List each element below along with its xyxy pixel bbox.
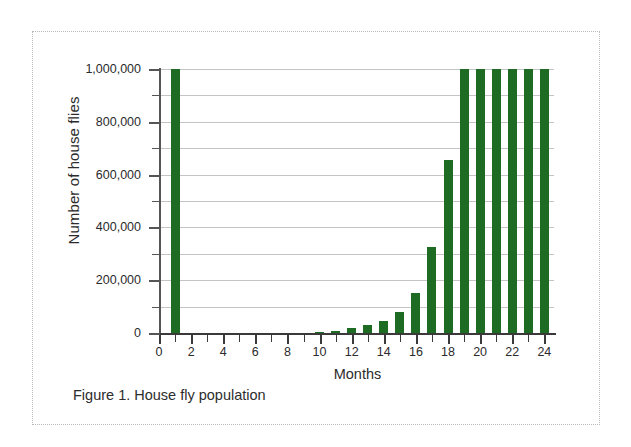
x-axis-tick-label: 4	[220, 345, 227, 359]
x-axis-minor-tick	[400, 335, 401, 342]
bar	[171, 69, 180, 333]
bar	[508, 69, 517, 333]
y-axis-minor-tick	[152, 95, 160, 96]
x-axis-major-tick	[191, 335, 193, 344]
bar	[460, 69, 469, 333]
x-axis-tick-label: 6	[252, 345, 259, 359]
x-axis-major-tick	[255, 335, 257, 344]
x-axis-tick-label: 2	[188, 345, 195, 359]
x-axis-major-tick	[448, 335, 450, 344]
y-axis-major-tick	[149, 69, 160, 71]
bar	[395, 312, 404, 333]
x-axis-minor-tick	[175, 335, 176, 342]
bar	[444, 160, 453, 333]
x-axis-tick-label: 0	[156, 345, 163, 359]
y-axis-tick-label: 0	[134, 326, 149, 340]
bar	[540, 69, 549, 333]
x-axis-major-tick	[512, 335, 514, 344]
y-axis-tick-label: 200,000	[96, 273, 149, 287]
bar	[476, 69, 485, 333]
x-axis-tick-label: 24	[537, 345, 551, 359]
bar	[379, 321, 388, 333]
x-axis-tick-label: 18	[441, 345, 455, 359]
x-axis-minor-tick	[336, 335, 337, 342]
x-axis-minor-tick	[496, 335, 497, 342]
x-axis-major-tick	[320, 335, 322, 344]
y-axis-major-tick	[149, 227, 160, 229]
x-axis-major-tick	[480, 335, 482, 344]
y-axis-tick-label: 800,000	[96, 115, 149, 129]
y-axis-title: Number of house flies	[65, 81, 82, 261]
y-axis-major-tick	[149, 280, 160, 282]
figure-caption: Figure 1. House fly population	[73, 387, 266, 403]
x-axis-minor-tick	[464, 335, 465, 342]
bar	[492, 69, 501, 333]
x-axis-tick-label: 8	[284, 345, 291, 359]
x-axis-tick-label: 10	[313, 345, 327, 359]
y-axis-minor-tick	[152, 254, 160, 255]
x-axis-major-tick	[159, 335, 161, 344]
x-axis-minor-tick	[432, 335, 433, 342]
x-axis-minor-tick	[207, 335, 208, 342]
y-axis-minor-tick	[152, 148, 160, 149]
x-axis-major-tick	[223, 335, 225, 344]
x-axis-minor-tick	[304, 335, 305, 342]
x-axis-tick-label: 14	[377, 345, 391, 359]
x-axis-title: Months	[159, 366, 556, 382]
x-axis-tick-label: 22	[505, 345, 519, 359]
y-axis-minor-tick	[152, 307, 160, 308]
y-axis-tick-label: 1,000,000	[85, 62, 149, 76]
y-axis-minor-tick	[152, 201, 160, 202]
x-axis-major-tick	[544, 335, 546, 344]
bar-chart: Number of house flies 0200,000400,000600…	[33, 32, 601, 372]
plot-area	[159, 69, 554, 333]
bar	[427, 247, 436, 333]
x-axis-tick-label: 16	[409, 345, 423, 359]
figure-frame: Number of house flies 0200,000400,000600…	[32, 31, 600, 425]
x-axis-major-tick	[352, 335, 354, 344]
x-axis-tick-label: 12	[345, 345, 359, 359]
x-axis-major-tick	[384, 335, 386, 344]
bar	[411, 293, 420, 333]
y-axis-major-tick	[149, 122, 160, 124]
bar	[363, 325, 372, 333]
x-axis-tick-label: 20	[473, 345, 487, 359]
bar	[524, 69, 533, 333]
y-axis-tick-label: 600,000	[96, 168, 149, 182]
x-axis-major-tick	[287, 335, 289, 344]
x-axis-minor-tick	[528, 335, 529, 342]
x-axis-major-tick	[416, 335, 418, 344]
x-axis-minor-tick	[239, 335, 240, 342]
x-axis-minor-tick	[271, 335, 272, 342]
y-axis-major-tick	[149, 175, 160, 177]
x-axis-minor-tick	[368, 335, 369, 342]
y-axis-tick-label: 400,000	[96, 220, 149, 234]
